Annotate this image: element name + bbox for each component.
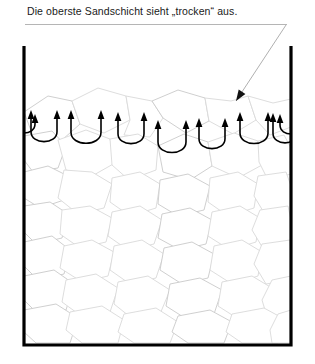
sand-grain (118, 308, 178, 343)
sand-grain (110, 240, 164, 284)
meniscus-arrowhead-icon (294, 113, 301, 122)
meniscus-arrowhead-icon (299, 114, 306, 123)
figure-canvas: Die oberste Sandschicht sieht „trocken“ … (0, 0, 315, 364)
sand-grain (248, 96, 291, 135)
sand-grain (66, 306, 124, 343)
sand-grain (158, 134, 212, 180)
sand-grain (58, 130, 115, 176)
sand-grain (160, 242, 214, 284)
diagram-svg (0, 0, 315, 364)
annotation-leader-line (236, 25, 286, 101)
sand-grain (205, 96, 256, 134)
meniscus-arrowhead-icon (10, 114, 17, 123)
sand-grain (208, 133, 262, 178)
